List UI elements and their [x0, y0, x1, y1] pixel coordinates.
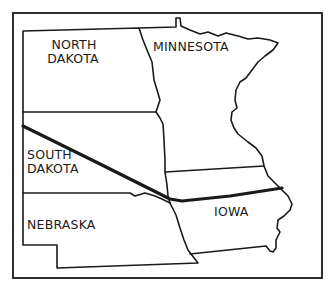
- label-nebraska: NEBRASKA: [27, 218, 96, 232]
- south-dakota-line1: SOUTH: [27, 148, 79, 162]
- minnesota-text: MINNESOTA: [153, 40, 229, 54]
- label-south-dakota: SOUTH DAKOTA: [27, 148, 79, 176]
- iowa-text: IOWA: [214, 205, 249, 219]
- mn-ia-boundary: [165, 166, 264, 172]
- label-iowa: IOWA: [214, 205, 249, 219]
- sd-mn-boundary: [156, 112, 170, 203]
- label-minnesota: MINNESOTA: [153, 40, 229, 54]
- north-dakota-line2: DAKOTA: [44, 52, 102, 66]
- north-dakota-line1: NORTH: [46, 38, 102, 52]
- label-north-dakota: NORTH DAKOTA: [46, 38, 102, 66]
- nebraska-text: NEBRASKA: [27, 218, 96, 232]
- south-dakota-line2: DAKOTA: [27, 162, 79, 176]
